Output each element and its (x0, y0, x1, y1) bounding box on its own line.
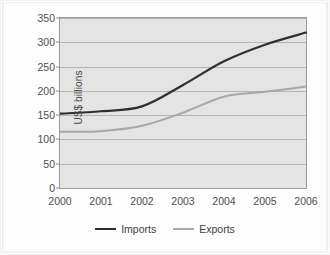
legend-swatch-imports (95, 228, 116, 230)
y-axis-tick-label: 350 (11, 12, 55, 24)
figure-edge-top (0, 0, 330, 4)
x-axis-tick-label: 2006 (294, 195, 317, 207)
y-axis-tick-label: 250 (11, 61, 55, 73)
chart-figure: 050100150200250300350 200020012002200320… (0, 0, 330, 255)
legend-swatch-exports (173, 228, 194, 230)
y-axis-tick-label: 150 (11, 109, 55, 121)
figure-edge-left (0, 0, 5, 255)
x-axis-tick-label: 2004 (212, 195, 235, 207)
x-axis-tick-label: 2005 (253, 195, 276, 207)
figure-edge-bottom (0, 250, 330, 255)
legend-item-imports[interactable]: Imports (95, 224, 156, 235)
series-line-exports (60, 86, 306, 131)
x-axis-tick-label: 2000 (48, 195, 71, 207)
y-axis-label: US$ billions (73, 38, 84, 158)
x-axis-tick-label: 2001 (89, 195, 112, 207)
chart-legend: ImportsExports (0, 224, 330, 235)
x-axis-tick-label: 2003 (171, 195, 194, 207)
legend-label: Exports (199, 224, 235, 235)
legend-label: Imports (121, 224, 156, 235)
y-axis-tick-label: 100 (11, 133, 55, 145)
y-axis-tick-label: 0 (11, 182, 55, 194)
plot-area: 050100150200250300350 200020012002200320… (59, 17, 307, 189)
series-lines (60, 18, 308, 190)
y-axis-tick-label: 200 (11, 85, 55, 97)
legend-item-exports[interactable]: Exports (173, 224, 235, 235)
y-axis-tick-label: 50 (11, 158, 55, 170)
x-axis-tick-label: 2002 (130, 195, 153, 207)
y-axis-tick-label: 300 (11, 36, 55, 48)
figure-edge-right (324, 0, 330, 255)
series-line-imports (60, 33, 306, 114)
